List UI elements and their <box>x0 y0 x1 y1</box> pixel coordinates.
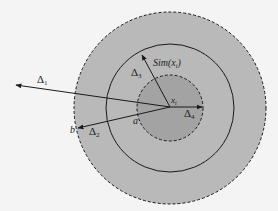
concentric-circles-diagram: Δ1 Δ2 Δ3 Δ4 Sim(xi) xi a b <box>0 0 278 211</box>
sim-label: Sim(xi) <box>153 57 181 69</box>
point-b-label: b <box>70 124 75 135</box>
diagram-canvas: Δ1 Δ2 Δ3 Δ4 Sim(xi) xi a b <box>0 0 278 211</box>
point-a-label: a <box>133 115 138 126</box>
inner-dashed-circle <box>137 75 203 141</box>
delta1-label: Δ1 <box>37 73 48 87</box>
